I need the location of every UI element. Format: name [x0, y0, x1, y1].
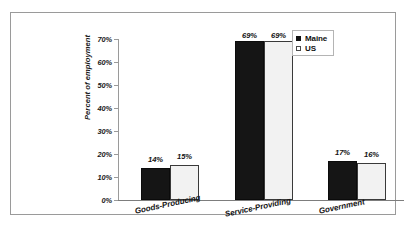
chart-figure: Percent of employment 70% 60% 50% 40% 30… [0, 0, 410, 233]
y-tick-label-20: 20% [77, 150, 112, 159]
bar-value-label-maine-service-providing: 69% [235, 31, 264, 40]
y-tick-label-50: 50% [77, 81, 112, 90]
y-tick-mark-30 [114, 131, 118, 132]
y-tick-label-10: 10% [77, 173, 112, 182]
y-tick-mark-50 [114, 85, 118, 86]
chart-legend[interactable]: Maine US [292, 30, 334, 56]
bar-value-label-us-goods-producing: 15% [170, 152, 199, 161]
y-tick-label-0: 0% [77, 196, 112, 205]
y-tick-label-60: 60% [77, 58, 112, 67]
legend-item-us[interactable]: US [296, 43, 327, 53]
legend-swatch-filled-square-icon [296, 36, 301, 41]
y-tick-label-70: 70% [77, 35, 112, 44]
y-tick-mark-10 [114, 177, 118, 178]
y-tick-mark-70 [114, 39, 118, 40]
legend-label-maine: Maine [305, 34, 327, 43]
bar-value-label-us-government: 16% [357, 150, 386, 159]
y-tick-mark-40 [114, 108, 118, 109]
legend-item-maine[interactable]: Maine [296, 33, 327, 43]
bar-maine-government[interactable] [328, 161, 357, 200]
y-tick-label-40: 40% [77, 104, 112, 113]
chart-frame: Percent of employment 70% 60% 50% 40% 30… [10, 12, 396, 215]
bar-maine-goods-producing[interactable] [141, 168, 170, 200]
y-tick-mark-60 [114, 62, 118, 63]
bar-value-label-maine-goods-producing: 14% [141, 155, 170, 164]
bar-maine-service-providing[interactable] [235, 41, 264, 200]
plot-area: 14% 15% 69% 69% 17% 16% [119, 39, 403, 200]
y-tick-mark-20 [114, 154, 118, 155]
y-tick-mark-0 [114, 200, 118, 201]
bar-value-label-maine-government: 17% [328, 148, 357, 157]
legend-label-us: US [305, 44, 316, 53]
legend-swatch-open-square-icon [296, 46, 301, 51]
bar-us-service-providing[interactable] [264, 41, 293, 200]
y-tick-label-30: 30% [77, 127, 112, 136]
bar-us-government[interactable] [357, 163, 386, 200]
bar-value-label-us-service-providing: 69% [264, 31, 293, 40]
